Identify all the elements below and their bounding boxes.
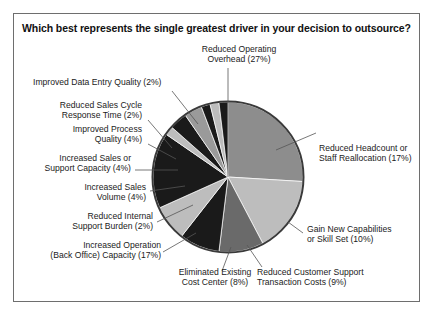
slice-label-increased-sales-volume: Increased Sales Volume (4%): [33, 182, 146, 203]
slice-label-reduced-sales-cycle: Reduced Sales Cycle Response Time (2%): [24, 100, 142, 121]
slice-label-eliminated-existing-cost-center: Eliminated Existing Cost Center (8%): [172, 267, 258, 288]
slice-label-gain-new-capabilities: Gain New Capabilities or Skill Set (10%): [307, 224, 419, 245]
pie-chart-stage: Reduced Operating Overhead (27%) Reduced…: [0, 0, 437, 320]
slice-label-reduced-operating-overhead: Reduced Operating Overhead (27%): [176, 44, 302, 65]
slice-label-reduced-customer-support: Reduced Customer Support Transaction Cos…: [257, 267, 397, 288]
pie-slice[interactable]: [228, 102, 303, 182]
slice-label-increased-operation-capacity: Increased Operation (Back Office) Capaci…: [18, 240, 161, 261]
slice-label-improved-data-entry-quality: Improved Data Entry Quality (2%): [33, 77, 233, 87]
slice-label-improved-process-quality: Improved Process Quality (4%): [29, 124, 142, 145]
slice-label-reduced-internal-support-burden: Reduced Internal Support Burden (2%): [28, 211, 153, 232]
slice-label-reduced-headcount: Reduced Headcount or Staff Reallocation …: [319, 143, 431, 164]
slice-label-increased-sales-or-support-capacity: Increased Sales or Support Capacity (4%): [16, 153, 131, 174]
screenshot-root: Which best represents the single greates…: [0, 0, 437, 320]
